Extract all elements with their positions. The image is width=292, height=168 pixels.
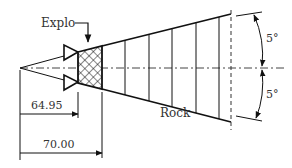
explosive-label: Explo [41,16,75,30]
angle-ref-bottom [236,116,262,121]
dim-label-inner: 64.95 [31,99,63,112]
explosive-leader [75,23,88,42]
angle-ref-top [236,12,262,16]
blast-cone-diagram: 5° 5° Explo Rock 64.95 70.00 [0,0,292,168]
angle-arc-upper [254,15,263,66]
lower-triangle-icon [64,75,78,90]
angle-label-lower: 5° [266,88,279,101]
rock-label: Rock [160,106,191,120]
angle-label-upper: 5° [266,32,279,45]
dim-label-outer: 70.00 [43,138,75,151]
upper-triangle-icon [64,45,78,60]
angle-arc-lower [256,70,263,118]
explosive-block [78,46,102,89]
